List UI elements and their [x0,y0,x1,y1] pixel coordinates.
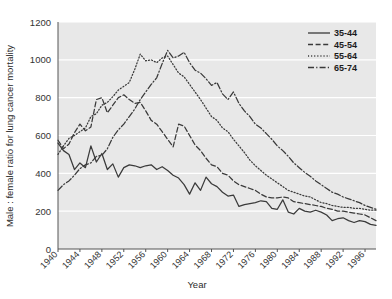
line-chart: 020040060080010001200 194019441948195219… [0,0,392,299]
y-tick-label: 600 [35,130,51,141]
y-tick-label: 1000 [30,54,51,65]
chart-figure: 020040060080010001200 194019441948195219… [0,0,392,299]
y-tick-label: 200 [35,206,51,217]
y-tick-label: 800 [35,92,51,103]
legend-label-55-64: 55-64 [334,51,357,61]
legend-label-65-74: 65-74 [334,63,357,73]
x-axis-title: Year [187,279,206,290]
y-tick-label: 400 [35,168,51,179]
legend-label-45-54: 45-54 [334,40,357,50]
y-axis-title: Male : female ratio for lung cancer mort… [4,45,15,227]
y-tick-label: 1200 [30,17,51,28]
legend-label-35-44: 35-44 [334,28,357,38]
